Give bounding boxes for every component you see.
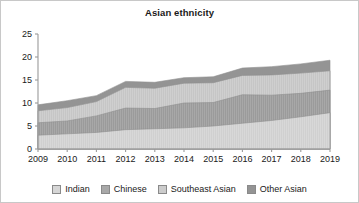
x-tick-label: 2009 [28,154,48,164]
x-tick-label: 2017 [262,154,282,164]
chart-card: Asian ethnicity 0510152025 2009 [0,0,359,203]
x-tick-label: 2011 [87,154,106,164]
y-tick-label: 25 [22,29,32,39]
y-tick-label: 0 [27,144,32,154]
chart-legend: IndianChineseSoutheast AsianOther Asian [1,184,358,194]
chart-title: Asian ethnicity [1,7,358,18]
y-tick-label: 5 [27,121,32,131]
legend-swatch-icon [52,185,61,194]
x-tick-label: 2013 [145,154,165,164]
x-tick-label: 2012 [116,154,136,164]
x-tick-label: 2015 [203,154,223,164]
plot-area: 0510152025 20092010201120122013201420152… [1,21,359,166]
x-tick-label: 2010 [57,154,77,164]
x-tick-label: 2018 [291,154,311,164]
legend-label: Southeast Asian [171,184,236,194]
y-tick-label: 20 [22,52,32,62]
y-tick-label: 10 [22,98,32,108]
area-chart-svg: 0510152025 20092010201120122013201420152… [1,21,359,166]
legend-item-other-asian[interactable]: Other Asian [247,184,307,194]
legend-item-southeast-asian[interactable]: Southeast Asian [158,184,236,194]
legend-label: Chinese [114,184,147,194]
x-axis-ticks: 2009201020112012201320142015201620172018… [28,149,340,164]
stacked-areas-group [38,60,330,149]
legend-label: Other Asian [260,184,307,194]
x-tick-label: 2019 [320,154,340,164]
legend-swatch-icon [158,185,167,194]
y-tick-label: 15 [22,75,32,85]
legend-item-chinese[interactable]: Chinese [101,184,147,194]
legend-swatch-icon [247,185,256,194]
x-tick-label: 2014 [174,154,194,164]
y-axis-ticks: 0510152025 [22,29,38,154]
x-tick-label: 2016 [232,154,252,164]
legend-item-indian[interactable]: Indian [52,184,90,194]
legend-label: Indian [65,184,90,194]
legend-swatch-icon [101,185,110,194]
